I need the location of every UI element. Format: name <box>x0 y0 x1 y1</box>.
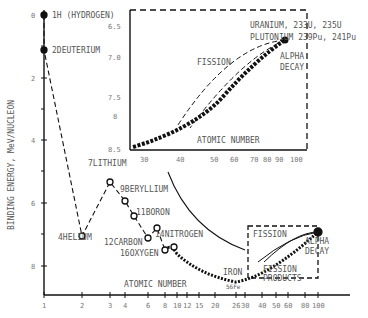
svg-text:ALPHA: ALPHA <box>280 52 304 61</box>
label-deuterium: 2DEUTERIUM <box>52 46 100 55</box>
label-hydrogen: 1H (HYDROGEN) <box>52 11 115 20</box>
svg-text:20: 20 <box>211 302 219 310</box>
label-oxygen: 16OXYGEN <box>120 249 159 258</box>
svg-text:100: 100 <box>312 302 325 310</box>
label-boron: 11BORON <box>136 208 170 217</box>
svg-text:80: 80 <box>301 302 309 310</box>
label-iron: IRON <box>223 268 242 277</box>
svg-text:FISSION: FISSION <box>197 58 231 67</box>
label-alpha-2: DECAY <box>305 247 329 256</box>
label-alpha-1: ALPHA <box>305 237 329 246</box>
svg-text:40: 40 <box>176 156 184 164</box>
svg-text:8.5: 8.5 <box>108 146 121 154</box>
binding-energy-chart: 0 2 4 6 8 BINDING ENERGY, MeV/NUCLEON 1 … <box>0 0 368 318</box>
svg-text:3: 3 <box>108 302 112 310</box>
label-fission: FISSION <box>253 230 287 239</box>
svg-text:80: 80 <box>263 156 271 164</box>
x-tick-labels: 1 2 3 4 6 8 10 12 15 20 26 30 40 50 60 8… <box>42 302 325 310</box>
svg-text:1: 1 <box>42 302 46 310</box>
svg-text:ATOMIC NUMBER: ATOMIC NUMBER <box>197 136 260 145</box>
svg-text:50: 50 <box>272 302 280 310</box>
svg-text:8: 8 <box>113 113 117 121</box>
svg-text:12: 12 <box>183 302 191 310</box>
svg-text:60: 60 <box>284 302 292 310</box>
svg-text:7.0: 7.0 <box>108 54 121 62</box>
svg-text:URANIUM, 233U, 235U: URANIUM, 233U, 235U <box>250 21 342 30</box>
svg-text:DECAY: DECAY <box>280 63 304 72</box>
x-axis-label: ATOMIC NUMBER <box>124 280 187 289</box>
label-nitrogen: 14NITROGEN <box>155 230 203 239</box>
label-fe56: 56Fe <box>226 283 241 290</box>
label-helium: 4HELIUM <box>58 233 92 242</box>
y-tick-label: 2 <box>31 75 35 83</box>
svg-text:2: 2 <box>80 302 84 310</box>
svg-text:4: 4 <box>123 302 127 310</box>
svg-text:6.5: 6.5 <box>108 23 121 31</box>
y-tick-label: 4 <box>31 137 35 145</box>
svg-text:30: 30 <box>140 156 148 164</box>
svg-text:40: 40 <box>258 302 266 310</box>
svg-text:7.5: 7.5 <box>108 94 121 102</box>
y-tick-label: 6 <box>31 200 35 208</box>
label-fission-products-1: FISSION <box>263 265 297 274</box>
svg-text:60: 60 <box>230 156 238 164</box>
label-carbon: 12CARBON <box>104 238 143 247</box>
svg-text:10: 10 <box>173 302 181 310</box>
label-beryllium: 9BERYLLIUM <box>120 185 168 194</box>
svg-text:100: 100 <box>290 156 303 164</box>
svg-text:70: 70 <box>250 156 258 164</box>
label-lithium: 7LITHIUM <box>88 159 127 168</box>
y-tick-label: 0 <box>31 12 35 20</box>
svg-text:15: 15 <box>195 302 203 310</box>
y-axis-label: BINDING ENERGY, MeV/NUCLEON <box>7 100 16 230</box>
inset-chart: 6.5 7.0 7.5 8 8.5 30 40 50 60 70 80 90 1… <box>108 10 356 164</box>
svg-text:PLUTONIUM 239Pu, 241Pu: PLUTONIUM 239Pu, 241Pu <box>250 33 356 42</box>
svg-text:90: 90 <box>275 156 283 164</box>
svg-text:30: 30 <box>241 302 249 310</box>
svg-text:8: 8 <box>163 302 167 310</box>
svg-text:6: 6 <box>146 302 150 310</box>
label-fission-products-2: PRODUCTS <box>263 274 302 283</box>
y-tick-label: 8 <box>31 263 35 271</box>
svg-text:50: 50 <box>210 156 218 164</box>
svg-text:26: 26 <box>232 302 240 310</box>
